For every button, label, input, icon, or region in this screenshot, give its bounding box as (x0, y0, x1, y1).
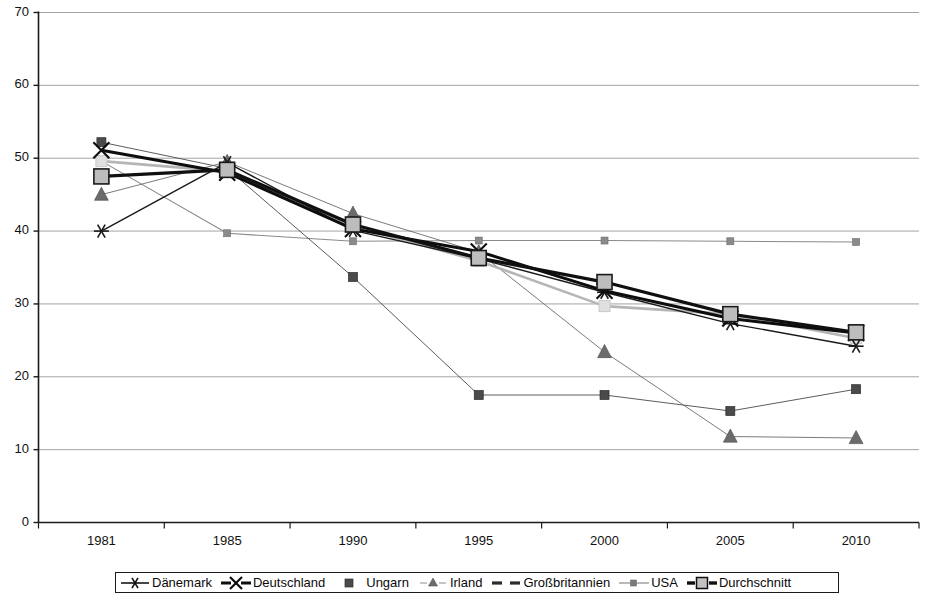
series-durchschnitt (94, 162, 864, 339)
y-tick-20: 20 (0, 368, 29, 383)
x-tick-2000: 2000 (565, 533, 645, 548)
axis-lines (34, 12, 920, 529)
legend-marker-dashed-asterisk-icon (120, 575, 150, 591)
x-tick-1981: 1981 (61, 533, 141, 548)
legend-label: USA (651, 576, 678, 590)
legend-item-gro-britannien[interactable]: Großbritannien (491, 573, 619, 592)
legend-marker-thick-cross-icon (221, 575, 251, 591)
legend-item-d-nemark[interactable]: Dänemark (120, 573, 221, 592)
chart-legend: DänemarkDeutschlandUngarnIrlandGroßbrita… (115, 572, 839, 593)
x-tick-2010: 2010 (816, 533, 896, 548)
legend-label: Dänemark (152, 576, 212, 590)
legend-marker-square-dark-icon (334, 575, 364, 591)
series-ungarn (97, 138, 861, 416)
legend-marker-dashed-thick-light-icon (491, 575, 521, 591)
chart-container: 706050403020100 198119851990199520002005… (0, 0, 929, 596)
legend-label: Deutschland (253, 576, 325, 590)
y-tick-50: 50 (0, 149, 29, 164)
x-tick-2005: 2005 (690, 533, 770, 548)
legend-label: Durchschnitt (719, 576, 791, 590)
line-chart-plot (0, 0, 929, 596)
series-irland (94, 154, 863, 443)
y-tick-70: 70 (0, 4, 29, 19)
x-tick-1985: 1985 (187, 533, 267, 548)
legend-item-deutschland[interactable]: Deutschland (221, 573, 334, 592)
y-tick-0: 0 (0, 514, 29, 529)
y-tick-60: 60 (0, 76, 29, 91)
x-tick-1990: 1990 (313, 533, 393, 548)
x-tick-1995: 1995 (439, 533, 519, 548)
legend-marker-dashed-triangle-icon (418, 575, 448, 591)
legend-label: Großbritannien (523, 576, 610, 590)
y-tick-30: 30 (0, 295, 29, 310)
legend-item-usa[interactable]: USA (619, 573, 687, 592)
legend-item-durchschnitt[interactable]: Durchschnitt (687, 573, 800, 592)
legend-marker-line-tiny-square-icon (619, 575, 649, 591)
y-tick-40: 40 (0, 222, 29, 237)
legend-item-ungarn[interactable]: Ungarn (334, 573, 418, 592)
gridlines (39, 13, 920, 523)
y-tick-10: 10 (0, 441, 29, 456)
legend-item-irland[interactable]: Irland (418, 573, 492, 592)
legend-label: Ungarn (366, 576, 409, 590)
legend-marker-thick-square-light-icon (687, 575, 717, 591)
legend-label: Irland (450, 576, 483, 590)
